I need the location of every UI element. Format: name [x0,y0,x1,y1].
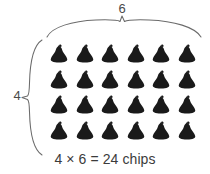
chocolate-chip-icon [101,44,119,63]
chocolate-chip-icon [101,121,119,140]
chocolate-chip-icon [101,95,119,114]
chocolate-chip-icon [178,44,196,63]
chocolate-chip-icon [50,121,68,140]
chip-grid [0,0,210,174]
chocolate-chip-icon [76,95,94,114]
diagram-canvas: 6 4 4 × 6 = 24 chips [0,0,210,174]
chocolate-chip-icon [101,70,119,89]
chocolate-chip-icon [50,95,68,114]
chocolate-chip-icon [76,70,94,89]
chocolate-chip-icon [127,121,145,140]
chocolate-chip-icon [178,70,196,89]
chocolate-chip-icon [127,44,145,63]
chocolate-chip-icon [127,70,145,89]
chocolate-chip-icon [178,121,196,140]
chocolate-chip-icon [152,70,170,89]
chocolate-chip-icon [50,70,68,89]
chocolate-chip-icon [50,44,68,63]
chocolate-chip-icon [152,95,170,114]
chocolate-chip-icon [152,44,170,63]
chocolate-chip-icon [127,95,145,114]
equation-caption: 4 × 6 = 24 chips [0,151,210,168]
chocolate-chip-icon [152,121,170,140]
chocolate-chip-icon [178,95,196,114]
chocolate-chip-icon [76,121,94,140]
chocolate-chip-icon [76,44,94,63]
